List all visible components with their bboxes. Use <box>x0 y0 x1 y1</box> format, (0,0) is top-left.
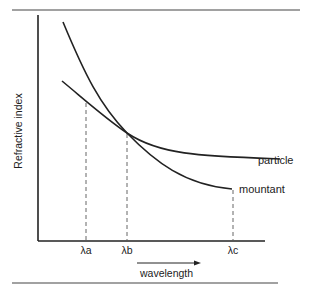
particle-label: particle <box>258 154 293 166</box>
mountant-curve <box>63 22 232 189</box>
wavelength-arrow-icon <box>137 261 201 266</box>
x-axis-label: wavelength <box>139 267 193 279</box>
mountant-label: mountant <box>239 183 285 195</box>
refractive-index-diagram: particle mountant Refractive index λa λb… <box>0 0 310 288</box>
y-axis-label: Refractive index <box>12 93 24 169</box>
marker-label-a: λa <box>80 244 91 256</box>
marker-label-c: λc <box>228 244 239 256</box>
particle-curve <box>62 81 280 159</box>
marker-label-b: λb <box>121 244 132 256</box>
